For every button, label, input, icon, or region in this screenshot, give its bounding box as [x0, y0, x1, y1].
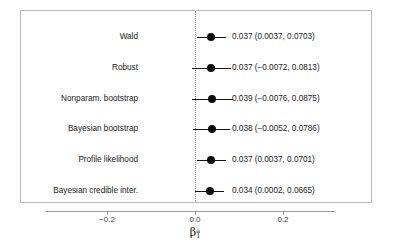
x-tick-label: 0.0: [189, 215, 200, 224]
forest-row: Bayesian bootstrap0.038 (−0.0052, 0.0786…: [0, 121, 396, 137]
row-label: Bayesian bootstrap: [68, 121, 138, 137]
estimate-point-marker: [207, 33, 215, 41]
x-axis-line: [45, 211, 335, 212]
row-label: Profile likelihood: [78, 152, 138, 168]
estimate-point-marker: [208, 125, 216, 133]
row-label: Robust: [112, 60, 138, 76]
forest-row: Robust0.037 (−0.0072, 0.0813): [0, 60, 396, 76]
forest-row: Bayesian credible inter.0.034 (0.0002, 0…: [0, 183, 396, 199]
row-value-text: 0.037 (0.0037, 0.0701): [232, 152, 315, 168]
forest-plot: Wald0.037 (0.0037, 0.0703)Robust0.037 (−…: [0, 0, 396, 246]
forest-row: Nonparam. bootstrap0.039 (−0.0076, 0.087…: [0, 91, 396, 107]
row-value-text: 0.037 (0.0037, 0.0703): [232, 29, 315, 45]
row-label: Wald: [120, 29, 138, 45]
x-tick-label: −0.2: [99, 215, 115, 224]
estimate-point-marker: [207, 156, 215, 164]
x-axis-title: β1a: [190, 226, 200, 240]
estimate-point-marker: [206, 187, 214, 195]
row-label: Bayesian credible inter.: [53, 183, 138, 199]
row-value-text: 0.038 (−0.0052, 0.0786): [232, 121, 320, 137]
x-tick-label: 0.2: [277, 215, 288, 224]
estimate-point-marker: [208, 95, 216, 103]
estimate-point-marker: [207, 64, 215, 72]
beta-superscript: a: [196, 227, 200, 235]
row-label: Nonparam. bootstrap: [61, 91, 138, 107]
forest-row: Profile likelihood0.037 (0.0037, 0.0701): [0, 152, 396, 168]
row-value-text: 0.037 (−0.0072, 0.0813): [232, 60, 320, 76]
forest-row: Wald0.037 (0.0037, 0.0703): [0, 29, 396, 45]
row-value-text: 0.034 (0.0002, 0.0665): [232, 183, 315, 199]
row-value-text: 0.039 (−0.0076, 0.0875): [232, 91, 320, 107]
